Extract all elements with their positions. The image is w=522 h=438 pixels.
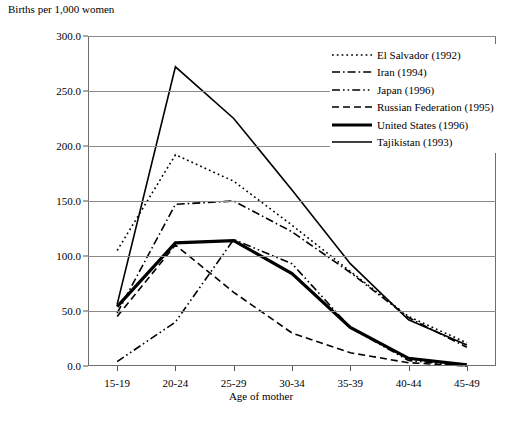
y-tick-mark [83,91,88,92]
x-tick-mark [117,366,118,371]
x-tick-mark [409,366,410,371]
y-tick-label: 100.0 [56,250,81,262]
x-tick-label: 45-49 [454,377,480,389]
y-tick-mark [83,146,88,147]
legend-line-swatch [330,136,374,148]
legend-label: Russian Federation (1995) [374,101,494,113]
x-axis-title: Age of mother [0,390,522,402]
x-tick-label: 15-19 [104,377,130,389]
legend-line-swatch [330,49,374,61]
x-tick-mark [350,366,351,371]
x-tick-label: 25-29 [221,377,247,389]
y-tick-mark [83,366,88,367]
y-tick-label: 300.0 [56,30,81,42]
y-axis-title: Births per 1,000 women [8,3,114,15]
y-tick-label: 50.0 [62,305,81,317]
legend-label: El Salvador (1992) [374,49,461,61]
x-tick-mark [292,366,293,371]
y-tick-mark [83,256,88,257]
legend-item[interactable]: El Salvador (1992) [330,46,510,64]
y-tick-label: 150.0 [56,195,81,207]
births-by-age-line-chart: Births per 1,000 women 0.050.0100.0150.0… [0,0,522,438]
legend-line-swatch [330,119,374,131]
y-tick-label: 200.0 [56,140,81,152]
y-tick-mark [83,36,88,37]
gridline [88,36,496,37]
legend-line-swatch [330,66,374,78]
gridline [88,201,496,202]
legend-line-swatch [330,101,374,113]
legend: El Salvador (1992)Iran (1994)Japan (1996… [330,44,510,153]
x-tick-mark [175,366,176,371]
y-tick-mark [83,201,88,202]
legend-label: Japan (1996) [374,84,434,96]
legend-line-swatch [330,84,374,96]
x-tick-label: 30-34 [279,377,305,389]
x-tick-label: 40-44 [396,377,422,389]
gridline [88,256,496,257]
legend-label: United States (1996) [374,119,468,131]
y-tick-label: 250.0 [56,85,81,97]
x-tick-mark [234,366,235,371]
y-tick-label: 0.0 [67,360,81,372]
y-tick-mark [83,311,88,312]
legend-item[interactable]: Iran (1994) [330,64,510,82]
x-tick-label: 20-24 [163,377,189,389]
legend-item[interactable]: United States (1996) [330,116,510,134]
x-tick-mark [467,366,468,371]
gridline [88,311,496,312]
legend-label: Iran (1994) [374,66,427,78]
legend-item[interactable]: Tajikistan (1993) [330,134,510,152]
legend-item[interactable]: Japan (1996) [330,81,510,99]
x-tick-label: 35-39 [337,377,363,389]
legend-item[interactable]: Russian Federation (1995) [330,99,510,117]
legend-label: Tajikistan (1993) [374,136,452,148]
